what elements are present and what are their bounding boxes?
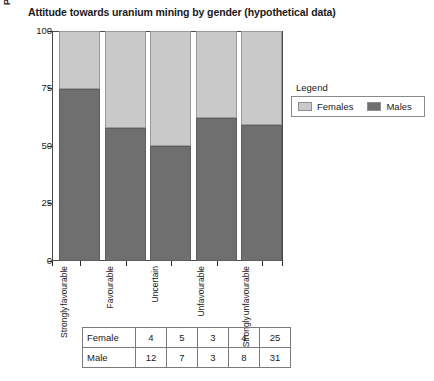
table-cell: 5 [167,328,198,348]
x-axis-label-word: Unfavourable [196,266,206,317]
bar-column[interactable] [105,31,146,261]
table-row-header: Male [83,348,136,368]
x-axis-label: Uncertain [150,266,191,318]
legend: Females Males [291,96,425,117]
bar-segment-females[interactable] [59,31,100,89]
bar-segment-females[interactable] [241,31,282,125]
legend-title: Legend [296,82,328,93]
x-axis-label-text: Uncertain [150,266,191,318]
x-axis-label-text: Favourable [105,266,146,318]
x-axis-label-word: unfavourable [241,266,251,315]
legend-label-females: Females [317,102,353,112]
bar-segment-females[interactable] [196,31,237,118]
data-table-body: Female453425Male1273831 [83,328,291,368]
table-row: Male1273831 [83,348,291,368]
x-axis-label-text: Stronglyfavourable [59,266,100,318]
x-axis-label-rotated: Unfavourable [196,266,237,318]
table-cell: 31 [260,348,291,368]
x-axis-label-rotated: Stronglyfavourable [59,266,100,318]
table-cell: 7 [167,348,198,368]
table-cell: 4 [136,328,167,348]
x-axis-label-rotated: Uncertain [150,266,191,318]
legend-swatch-males [367,102,381,111]
bar-segment-males[interactable] [150,146,191,261]
bar-segment-males[interactable] [241,125,282,261]
table-cell: 4 [229,328,260,348]
bar-column[interactable] [59,31,100,261]
y-axis-ticks: 100 75 50 25 0 [22,0,52,381]
x-axis-label-text: Stronglyunfavourable [241,266,282,318]
legend-entry-males[interactable]: Males [367,102,411,112]
bar-segment-males[interactable] [59,89,100,262]
table-row: Female453425 [83,328,291,348]
bar-column[interactable] [241,31,282,261]
x-axis-label: Stronglyfavourable [59,266,100,318]
table-cell: 8 [229,348,260,368]
x-axis-label: Stronglyunfavourable [241,266,282,318]
table-cell: 3 [198,348,229,368]
bar-segment-females[interactable] [150,31,191,146]
x-axis-label: Favourable [105,266,146,318]
x-axis-labels: StronglyfavourableFavourableUncertainUnf… [52,266,283,318]
x-axis-label-word: favourable [59,266,69,306]
x-axis-label: Unfavourable [196,266,237,318]
data-table: Female453425Male1273831 [82,327,291,368]
legend-label-males: Males [386,102,411,112]
bars-layer [52,31,283,261]
bar-column[interactable] [150,31,191,261]
table-cell: 3 [198,328,229,348]
y-axis-title: Percentage of respondents [0,0,14,59]
bar-segment-males[interactable] [105,128,146,261]
table-cell: 12 [136,348,167,368]
x-axis-label-rotated: Favourable [105,266,146,318]
bar-segment-males[interactable] [196,118,237,261]
table-row-header: Female [83,328,136,348]
bar-segment-females[interactable] [105,31,146,128]
table-cell: 25 [260,328,291,348]
x-axis-label-text: Unfavourable [196,266,237,318]
legend-entry-females[interactable]: Females [298,102,353,112]
page-title: Attitude towards uranium mining by gende… [28,6,336,18]
x-axis-label-word: Strongly [59,307,69,338]
bar-column[interactable] [196,31,237,261]
x-axis-label-word: Favourable [105,266,115,309]
legend-swatch-females [298,102,312,111]
x-axis-label-rotated: Stronglyunfavourable [241,266,282,318]
x-axis-label-word: Uncertain [150,266,160,302]
